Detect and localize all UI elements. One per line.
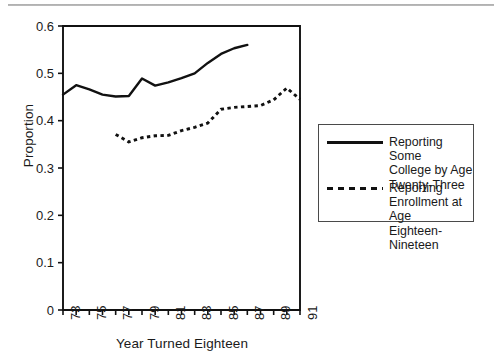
y-tick-label: 0.6 [10, 20, 54, 33]
x-tick-label: 85 [227, 306, 240, 320]
y-tick-label: 0.2 [10, 209, 54, 222]
x-tick-label: 81 [174, 306, 187, 320]
legend-label-solid-line-1: Reporting Some [389, 135, 475, 163]
x-tick-label: 91 [306, 306, 319, 320]
chart-figure: Proportion Year Turned Eighteen 0.60.50.… [0, 0, 496, 358]
y-tick-label: 0.5 [10, 67, 54, 80]
x-tick-label: 89 [279, 306, 292, 320]
legend-label-dashed-line-2: Enrollment at Age [389, 195, 475, 223]
y-tick-label: 0.1 [10, 256, 54, 269]
x-tick-label: 77 [121, 306, 134, 320]
series-line-2 [116, 88, 300, 142]
x-tick-label: 75 [95, 306, 108, 320]
x-tick-label: 73 [69, 306, 82, 320]
legend-label-dashed-line-3: Eighteen-Nineteen [389, 224, 475, 252]
chart-legend: Reporting Some College by Age Twenty-Thr… [318, 124, 474, 222]
solid-line-sample [327, 135, 383, 149]
x-tick-label: 79 [148, 306, 161, 320]
series-line-1 [63, 45, 247, 97]
dashed-line-sample [327, 181, 383, 195]
y-tick-label: 0.4 [10, 114, 54, 127]
legend-label-dashed-line-1: Reporting [389, 181, 475, 195]
x-tick-label: 83 [200, 306, 213, 320]
axis-frame [63, 26, 300, 310]
y-tick-label: 0.3 [10, 162, 54, 175]
legend-label-solid-line-2: College by Age [389, 163, 475, 177]
y-tick-label: 0 [10, 304, 54, 317]
legend-label-dashed: Reporting Enrollment at Age Eighteen-Nin… [389, 181, 475, 252]
x-tick-label: 87 [253, 306, 266, 320]
data-series-layer [63, 45, 300, 142]
